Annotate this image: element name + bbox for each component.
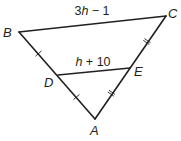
segment-bc-length-label: 3h − 1: [74, 5, 109, 18]
vertex-label-c: C: [168, 7, 177, 20]
segment-ba: [19, 32, 95, 119]
segment-bc: [19, 16, 166, 32]
vertex-label-a: A: [90, 124, 99, 137]
vertex-label-d: D: [44, 76, 53, 89]
triangle-diagram: [0, 0, 181, 141]
vertex-label-e: E: [134, 65, 143, 78]
segment-de-length-label: h + 10: [75, 56, 110, 69]
vertex-label-b: B: [3, 26, 12, 39]
segment-de: [58, 68, 130, 75]
